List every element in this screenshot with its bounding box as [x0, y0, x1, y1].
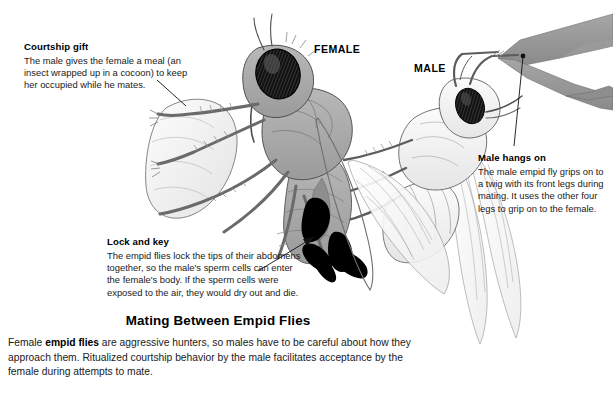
callout-gift-line-3: her occupied while he mates.	[24, 79, 187, 91]
callout-male-hangs-on: Male hangs on The male empid fly grips o…	[478, 152, 604, 215]
callout-lock-body: The empid flies lock the tips of their a…	[107, 250, 300, 300]
callout-gift-body: The male gives the female a meal (an ins…	[24, 55, 187, 92]
callout-gift-line-1: The male gives the female a meal (an	[24, 55, 187, 67]
callout-hangs-line-1: The male empid fly grips on to	[478, 166, 604, 178]
callout-hangs-heading: Male hangs on	[478, 152, 604, 165]
female-antennae	[254, 14, 272, 50]
caption-text: Female empid flies are aggressive hunter…	[8, 336, 428, 380]
callout-hangs-line-3: mating. It uses the other four	[478, 190, 604, 202]
callout-lock-line-2: together, so the male's sperm cells can …	[107, 262, 300, 274]
courtship-gift-cocoon	[146, 99, 237, 218]
callout-hangs-line-4: legs to grip on to the female.	[478, 203, 604, 215]
caption-emphasis: empid flies	[45, 337, 99, 348]
callout-gift-line-2: insect wrapped up in a cocoon) to keep	[24, 67, 187, 79]
caption-pre: Female	[8, 337, 45, 348]
label-male: MALE	[414, 62, 446, 74]
callout-hangs-line-2: a twig with its front legs during	[478, 178, 604, 190]
page-title: Mating Between Empid Flies	[8, 313, 428, 328]
callout-gift-heading: Courtship gift	[24, 41, 187, 54]
caption-block: Mating Between Empid Flies Female empid …	[8, 313, 428, 380]
callout-lock-and-key: Lock and key The empid flies lock the ti…	[107, 236, 300, 299]
figure-canvas: Courtship gift The male gives the female…	[0, 0, 613, 393]
twig	[498, 14, 613, 110]
label-female: FEMALE	[314, 43, 360, 55]
callout-lock-line-1: The empid flies lock the tips of their a…	[107, 250, 300, 262]
callout-lock-line-3: the female's body. If the sperm cells we…	[107, 274, 300, 286]
callout-courtship-gift: Courtship gift The male gives the female…	[24, 41, 187, 92]
callout-lock-line-4: exposed to the air, they would dry out a…	[107, 287, 300, 299]
callout-lock-heading: Lock and key	[107, 236, 300, 249]
callout-hangs-body: The male empid fly grips on to a twig wi…	[478, 166, 604, 216]
